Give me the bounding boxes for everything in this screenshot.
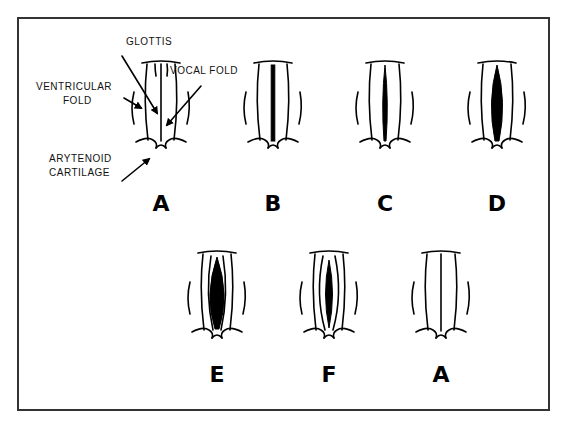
label-glottis: GLOTTIS: [126, 36, 172, 47]
vocal-fold-diagram: GLOTTIS VOCAL FOLD VENTRICULAR FOLD ARYT…: [0, 0, 566, 429]
panel-label-a2: A: [432, 362, 449, 387]
label-arytenoid: ARYTENOID: [49, 153, 112, 164]
label-ventricular-fold: VENTRICULAR: [36, 81, 112, 92]
panel-f: [300, 251, 357, 338]
panel-c: [356, 61, 413, 148]
vocal-fold-arrow: [167, 86, 201, 125]
panel-label-e: E: [209, 362, 224, 387]
glottis-arrow: [122, 56, 157, 113]
label-vocal-fold: VOCAL FOLD: [170, 65, 238, 76]
label-ventricular-fold-2: FOLD: [63, 95, 92, 106]
panel-a2: [412, 251, 469, 338]
label-cartilage: CARTILAGE: [49, 167, 110, 178]
panel-label-c: C: [377, 191, 393, 216]
panel-e: [188, 251, 245, 338]
panel-label-f: F: [321, 362, 336, 387]
arytenoid-arrow: [122, 159, 149, 181]
panel-label-b: B: [265, 191, 282, 216]
panel-b: [244, 61, 301, 148]
panel-label-a1: A: [152, 191, 169, 216]
panel-d: [468, 61, 525, 148]
panel-label-d: D: [488, 191, 506, 216]
